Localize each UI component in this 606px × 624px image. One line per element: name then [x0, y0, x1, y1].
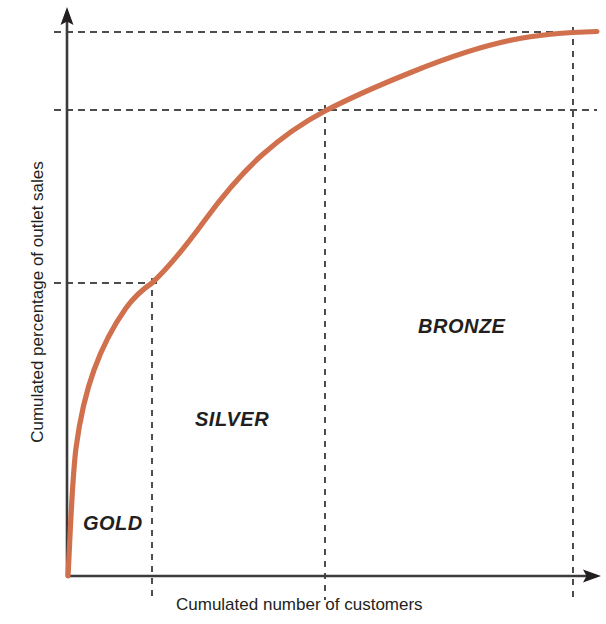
silver-segment-label: SILVER [195, 408, 269, 431]
gold-segment-label: GOLD [83, 512, 143, 535]
x-axis [66, 570, 601, 583]
chart-container: GOLD SILVER BRONZE Cumulated number of c… [0, 0, 606, 624]
y-axis-title: Cumulated percentage of outlet sales [28, 122, 48, 482]
cumulative-sales-curve [68, 32, 597, 577]
x-axis-title: Cumulated number of customers [176, 595, 423, 615]
bronze-segment-label: BRONZE [418, 315, 505, 338]
